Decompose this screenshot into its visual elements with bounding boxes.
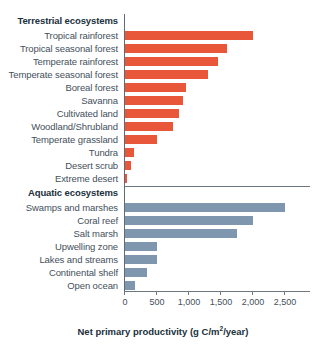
category-label: Temperate rainforest [0, 55, 118, 68]
bar-track [125, 96, 326, 105]
bar-terrestrial-1 [125, 44, 227, 53]
value-axis-tick [220, 291, 221, 295]
bar-terrestrial-4 [125, 83, 186, 92]
category-label: Salt marsh [0, 227, 118, 240]
bar-row: Savanna [0, 94, 326, 107]
bar-row: Tropical rainforest [0, 29, 326, 42]
bar-row: Salt marsh [0, 227, 326, 240]
category-label: Desert scrub [0, 159, 118, 172]
bar-terrestrial-5 [125, 96, 183, 105]
bar-track [125, 31, 326, 40]
category-label: Coral reef [0, 214, 118, 227]
bar-track [125, 216, 326, 225]
bar-track [125, 83, 326, 92]
value-axis-tick-label: 500 [149, 297, 164, 308]
value-axis-tick-label: 0 [122, 297, 127, 308]
chart-figure: Terrestrial ecosystems Tropical rainfore… [0, 0, 326, 350]
bar-row: Temperate grassland [0, 133, 326, 146]
bar-track [125, 70, 326, 79]
bar-track [125, 255, 326, 264]
bar-terrestrial-3 [125, 70, 208, 79]
value-axis-tick-label: 2,000 [242, 297, 265, 308]
value-axis-tick-label: 1,500 [210, 297, 233, 308]
bar-row: Desert scrub [0, 159, 326, 172]
bar-row: Coral reef [0, 214, 326, 227]
bar-track [125, 229, 326, 238]
bar-row: Upwelling zone [0, 240, 326, 253]
value-axis-tick [156, 291, 157, 295]
axis-title-suffix: /year) [223, 326, 248, 337]
bar-track [125, 57, 326, 66]
category-label: Boreal forest [0, 81, 118, 94]
bar-row: Tropical seasonal forest [0, 42, 326, 55]
bar-track [125, 122, 326, 131]
panel-title-row-terrestrial: Terrestrial ecosystems [0, 14, 326, 29]
category-label: Temperate grassland [0, 133, 118, 146]
category-label: Swamps and marshes [0, 201, 118, 214]
panel-title-aquatic: Aquatic ecosystems [0, 186, 118, 200]
value-axis-line [124, 291, 310, 292]
bar-aquatic-6 [125, 281, 135, 290]
panel-title-terrestrial: Terrestrial ecosystems [0, 14, 118, 28]
bar-terrestrial-6 [125, 109, 179, 118]
bar-row: Tundra [0, 146, 326, 159]
panel-terrestrial: Terrestrial ecosystems Tropical rainfore… [0, 14, 326, 185]
bar-row: Extreme desert [0, 172, 326, 185]
bar-aquatic-2 [125, 229, 237, 238]
category-label: Open ocean [0, 279, 118, 292]
bar-track [125, 242, 326, 251]
bar-track [125, 203, 326, 212]
bar-terrestrial-2 [125, 57, 218, 66]
axis-title: Net primary productivity (g C/m2/year) [0, 326, 326, 337]
category-label: Extreme desert [0, 172, 118, 185]
category-label: Lakes and streams [0, 253, 118, 266]
bar-track [125, 148, 326, 157]
bar-terrestrial-8 [125, 135, 157, 144]
panel-aquatic: Aquatic ecosystems Swamps and marshes Co… [0, 186, 326, 292]
bar-track [125, 44, 326, 53]
bar-row: Cultivated land [0, 107, 326, 120]
bar-terrestrial-7 [125, 122, 173, 131]
bar-aquatic-3 [125, 242, 157, 251]
bar-terrestrial-9 [125, 148, 134, 157]
bar-row: Temperate rainforest [0, 55, 326, 68]
category-label: Woodland/Shrubland [0, 120, 118, 133]
category-label: Tundra [0, 146, 118, 159]
category-label: Savanna [0, 94, 118, 107]
value-axis-tick-label: 1,000 [178, 297, 201, 308]
category-label: Tropical rainforest [0, 29, 118, 42]
bar-terrestrial-10 [125, 161, 131, 170]
value-axis-tick [124, 291, 125, 295]
bar-track [125, 109, 326, 118]
category-label: Cultivated land [0, 107, 118, 120]
value-axis-tick-label: 2,500 [274, 297, 297, 308]
category-label: Temperate seasonal forest [0, 68, 118, 81]
bar-track [125, 135, 326, 144]
bar-terrestrial-11 [125, 174, 127, 183]
category-label: Upwelling zone [0, 240, 118, 253]
panel-title-row-aquatic: Aquatic ecosystems [0, 186, 326, 201]
bar-aquatic-1 [125, 216, 253, 225]
bar-row: Woodland/Shrubland [0, 120, 326, 133]
category-label: Tropical seasonal forest [0, 42, 118, 55]
bar-track [125, 174, 326, 183]
bar-aquatic-0 [125, 203, 285, 212]
bar-row: Continental shelf [0, 266, 326, 279]
axis-title-prefix: Net primary productivity (g C/m [78, 326, 220, 337]
bar-terrestrial-0 [125, 31, 253, 40]
bar-track [125, 281, 326, 290]
bar-row: Swamps and marshes [0, 201, 326, 214]
category-label: Continental shelf [0, 266, 118, 279]
bar-aquatic-4 [125, 255, 157, 264]
value-axis-tick [188, 291, 189, 295]
bar-aquatic-5 [125, 268, 147, 277]
bar-row: Lakes and streams [0, 253, 326, 266]
bar-track [125, 161, 326, 170]
bar-row: Boreal forest [0, 81, 326, 94]
value-axis-tick [284, 291, 285, 295]
value-axis-tick [252, 291, 253, 295]
bar-track [125, 268, 326, 277]
bar-row: Temperate seasonal forest [0, 68, 326, 81]
